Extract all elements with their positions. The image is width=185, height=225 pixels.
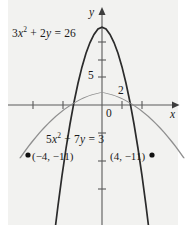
- equation-upper-rhs: = 26: [51, 27, 76, 39]
- intersection-point-right: [149, 152, 154, 157]
- point-label-right: (4, −11): [110, 150, 145, 162]
- equation-lower-mid: + 7: [61, 133, 80, 145]
- y-axis-tick-label-5: 5: [88, 69, 94, 81]
- point-label-left: (−4, −11): [32, 150, 73, 162]
- intersection-point-left: [25, 152, 30, 157]
- y-axis-arrowhead: [99, 7, 106, 15]
- equation-label-lower: 5x2 + 7y = 3: [46, 133, 104, 145]
- x-axis-tick-label-2: 2: [118, 84, 124, 96]
- origin-label: 0: [106, 107, 112, 119]
- y-axis-label: y: [89, 6, 94, 18]
- x-axis-label: x: [170, 108, 175, 120]
- equation-lower-rhs: = 3: [85, 133, 104, 145]
- parabola-system-figure: 3x2 + 2y = 26 5x2 + 7y = 3 (−4, −11) (4,…: [0, 0, 185, 225]
- equation-upper-mid: + 2: [27, 27, 46, 39]
- equation-label-upper: 3x2 + 2y = 26: [12, 27, 76, 39]
